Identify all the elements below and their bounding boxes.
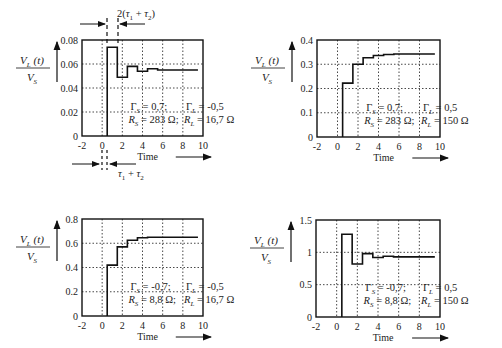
x-tick-label: 8 <box>180 320 185 331</box>
x-tick-label: 6 <box>397 141 402 152</box>
y-axis-label-numerator: VL (t) <box>20 54 44 69</box>
x-tick-label: 10 <box>198 140 208 151</box>
x-tick-label: 4 <box>376 141 381 152</box>
param-r-s: RS = 283 Ω; <box>363 115 414 129</box>
figure: -2024681000.020.040.060.08TimeVL (t)VSΓS… <box>0 0 502 348</box>
svg-text:τ1 + τ2: τ1 + τ2 <box>118 168 144 182</box>
y-tick-label: 1.5 <box>300 215 313 226</box>
param-gamma-s: ΓS = -0,7; <box>366 282 406 296</box>
param-gamma-l: ΓL = -0,5 <box>186 281 224 295</box>
y-tick-label: 0.2 <box>66 286 79 297</box>
y-tick-label: 0.06 <box>61 59 79 70</box>
x-tick-label: 0 <box>100 320 105 331</box>
x-axis-label: Time <box>373 152 394 163</box>
y-tick-label: 1 <box>307 247 312 258</box>
x-tick-label: 6 <box>160 140 165 151</box>
x-tick-label: 8 <box>417 141 422 152</box>
y-tick-label: 0.2 <box>301 83 314 94</box>
x-tick-label: 0 <box>100 140 105 151</box>
x-tick-label: 10 <box>435 141 445 152</box>
x-tick-label: -2 <box>78 320 86 331</box>
param-r-l: RL = 150 Ω <box>420 295 469 309</box>
param-r-l: RL = 16,7 Ω <box>183 114 234 128</box>
param-r-s: RS = 8,8 Ω; <box>363 295 412 309</box>
y-axis-label-denominator: VS <box>262 71 273 86</box>
y-tick-label: 0.3 <box>301 59 314 70</box>
x-tick-label: -2 <box>313 141 321 152</box>
x-tick-label: 6 <box>160 320 165 331</box>
x-tick-label: 2 <box>355 321 360 332</box>
y-axis-label-denominator: VS <box>27 71 38 86</box>
x-tick-label: 0 <box>335 141 340 152</box>
x-tick-label: 6 <box>396 321 401 332</box>
y-tick-label: 0 <box>308 132 313 143</box>
y-tick-label: 0.6 <box>66 238 79 249</box>
param-r-s: RS = 8,8 Ω; <box>127 294 176 308</box>
x-axis-label: Time <box>137 331 158 342</box>
x-tick-label: 4 <box>140 320 145 331</box>
x-tick-label: 8 <box>180 140 185 151</box>
y-tick-label: 0.1 <box>301 107 314 118</box>
x-tick-label: 8 <box>417 321 422 332</box>
x-tick-label: 2 <box>120 320 125 331</box>
x-tick-label: 4 <box>140 140 145 151</box>
y-tick-label: 0.4 <box>66 262 79 273</box>
chart-top-left: -2024681000.020.040.060.08TimeVL (t)VSΓS… <box>16 35 234 163</box>
x-tick-label: -2 <box>312 321 320 332</box>
param-r-l: RL = 150 Ω <box>420 115 469 129</box>
param-gamma-s: ΓS = -0,7; <box>130 281 170 295</box>
param-gamma-s: ΓS = 0,7; <box>130 101 167 115</box>
chart-bottom-right: -2024681000.511.5TimeVL (t)VSΓS = -0,7;R… <box>250 215 469 344</box>
y-tick-label: 0.08 <box>61 35 79 46</box>
param-r-s: RS = 283 Ω; <box>127 114 178 128</box>
annotation-tau: τ1 + τ2 <box>72 150 144 182</box>
x-tick-label: 4 <box>376 321 381 332</box>
x-tick-label: 2 <box>120 140 125 151</box>
chart-bottom-left: -2024681000.20.40.60.8TimeVL (t)VSΓS = -… <box>16 214 234 343</box>
y-axis-label-denominator: VS <box>27 250 38 265</box>
y-tick-label: 0 <box>73 131 78 142</box>
y-tick-label: 0.5 <box>300 279 313 290</box>
param-r-l: RL = 16,7 Ω <box>183 294 234 308</box>
x-tick-label: 10 <box>435 321 445 332</box>
y-axis-label-numerator: VL (t) <box>255 54 279 69</box>
x-tick-label: 0 <box>334 321 339 332</box>
y-axis-label-numerator: VL (t) <box>254 234 278 249</box>
y-tick-label: 0.04 <box>61 83 79 94</box>
y-axis-label-numerator: VL (t) <box>20 233 44 248</box>
y-tick-label: 0.02 <box>61 107 79 118</box>
x-tick-label: -2 <box>78 140 86 151</box>
x-tick-label: 2 <box>356 141 361 152</box>
y-tick-label: 0 <box>307 312 312 323</box>
svg-text:2(τ1 + τ2): 2(τ1 + τ2) <box>117 8 155 22</box>
x-tick-label: 10 <box>198 320 208 331</box>
param-gamma-s: ΓS = 0,7; <box>366 102 403 116</box>
x-axis-label: Time <box>137 151 158 162</box>
param-gamma-l: ΓL = -0,5 <box>186 101 224 115</box>
x-axis-label: Time <box>373 332 394 343</box>
y-tick-label: 0 <box>73 311 78 322</box>
y-axis-label-denominator: VS <box>261 251 272 266</box>
chart-top-right: -2024681000.10.20.30.4TimeVL (t)VSΓS = 0… <box>251 35 469 164</box>
y-tick-label: 0.4 <box>301 35 314 46</box>
y-tick-label: 0.8 <box>66 214 79 225</box>
